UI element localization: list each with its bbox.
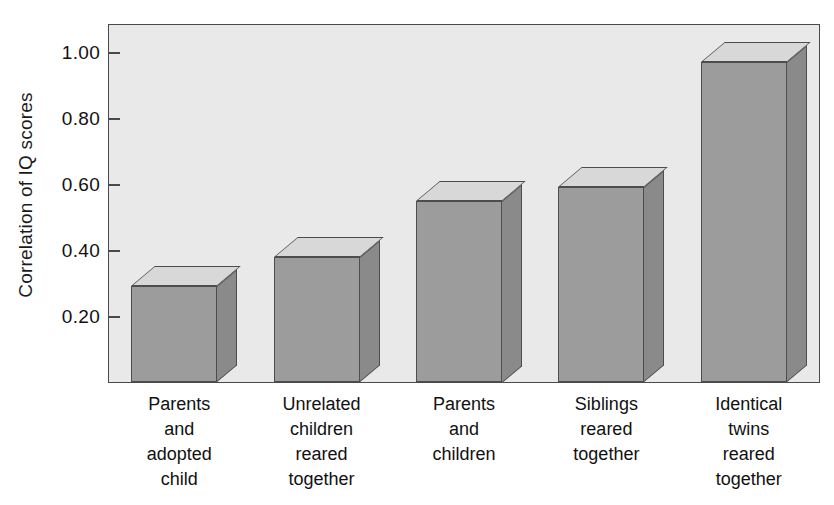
bar	[558, 187, 644, 382]
y-axis-tick-labels: 0.200.400.600.801.00	[44, 0, 100, 390]
bar-front-face	[416, 201, 502, 383]
x-axis-label-line: twins	[678, 417, 820, 442]
y-axis-tick-mark	[108, 316, 120, 318]
y-axis-tick-label: 0.20	[44, 306, 100, 328]
x-axis-category-label: Siblingsrearedtogether	[535, 392, 677, 467]
y-axis-tick-mark	[108, 184, 120, 186]
x-axis-label-line: adopted	[108, 442, 250, 467]
bar-side-face	[787, 45, 807, 382]
bar	[701, 62, 787, 382]
bars-container	[109, 25, 819, 382]
x-axis-label-line: reared	[250, 442, 392, 467]
bar-front-face	[274, 257, 360, 382]
plot-area	[108, 24, 820, 383]
bar-side-face	[502, 184, 522, 382]
x-axis-label-line: reared	[535, 417, 677, 442]
bar	[131, 286, 217, 382]
bar-front-face	[558, 187, 644, 382]
y-axis-tick-mark	[108, 250, 120, 252]
bar	[274, 257, 360, 382]
y-axis-tick-mark	[108, 118, 120, 120]
y-axis-tick-label: 0.60	[44, 174, 100, 196]
bar-side-face	[360, 240, 380, 382]
x-axis-label-line: children	[250, 417, 392, 442]
x-axis-label-line: child	[108, 467, 250, 492]
x-axis-category-labels: ParentsandadoptedchildUnrelatedchildrenr…	[108, 392, 820, 502]
x-axis-label-line: together	[250, 467, 392, 492]
x-axis-label-line: Unrelated	[250, 392, 392, 417]
x-axis-label-line: Identical	[678, 392, 820, 417]
x-axis-label-line: and	[108, 417, 250, 442]
x-axis-category-label: Identicaltwinsrearedtogether	[678, 392, 820, 492]
x-axis-category-label: Parentsandchildren	[393, 392, 535, 467]
y-axis-tick-mark	[108, 52, 120, 54]
x-axis-label-line: and	[393, 417, 535, 442]
x-axis-label-line: Parents	[108, 392, 250, 417]
y-axis-tick-label: 1.00	[44, 42, 100, 64]
bar-side-face	[217, 270, 237, 382]
x-axis-category-label: Unrelatedchildrenrearedtogether	[250, 392, 392, 492]
bar-front-face	[701, 62, 787, 382]
bar-side-face	[644, 171, 664, 382]
x-axis-label-line: children	[393, 442, 535, 467]
x-axis-label-line: Parents	[393, 392, 535, 417]
x-axis-label-line: together	[535, 442, 677, 467]
y-axis-tick-label: 0.40	[44, 240, 100, 262]
x-axis-label-line: together	[678, 467, 820, 492]
bar	[416, 201, 502, 383]
x-axis-label-line: Siblings	[535, 392, 677, 417]
bar-front-face	[131, 286, 217, 382]
x-axis-category-label: Parentsandadoptedchild	[108, 392, 250, 492]
y-axis-title: Correlation of IQ scores	[15, 92, 37, 297]
chart-figure: Correlation of IQ scores 0.200.400.600.8…	[0, 0, 834, 505]
y-axis-tick-label: 0.80	[44, 108, 100, 130]
x-axis-label-line: reared	[678, 442, 820, 467]
